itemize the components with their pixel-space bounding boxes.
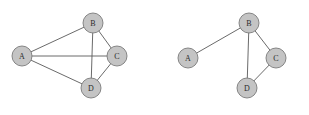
node-circle	[266, 48, 286, 68]
graph-edge-a-b	[188, 23, 249, 58]
graph-figure-canvas: ABCDABCD	[0, 0, 309, 115]
node-circle	[81, 78, 101, 98]
reduced-graph-nodes: ABCD	[178, 13, 286, 98]
graph-edge-a-d	[22, 56, 91, 88]
graph-node-d[interactable]: D	[237, 78, 257, 98]
graph-node-a[interactable]: A	[12, 46, 32, 66]
reduced-graph-edges	[188, 23, 276, 88]
graph-node-c[interactable]: C	[266, 48, 286, 68]
node-circle	[178, 48, 198, 68]
graph-node-b[interactable]: B	[83, 13, 103, 33]
graph-node-d[interactable]: D	[81, 78, 101, 98]
graph-node-c[interactable]: C	[107, 46, 127, 66]
graph-node-b[interactable]: B	[239, 13, 259, 33]
graph-edge-a-b	[22, 23, 93, 56]
graph-node-a[interactable]: A	[178, 48, 198, 68]
nodes-layer: ABCDABCD	[12, 13, 286, 98]
node-circle	[237, 78, 257, 98]
node-circle	[12, 46, 32, 66]
node-circle	[83, 13, 103, 33]
node-circle	[239, 13, 259, 33]
node-circle	[107, 46, 127, 66]
figure-root: ABCDABCD	[0, 0, 309, 115]
complete-graph-edges	[22, 23, 117, 88]
edges-layer	[22, 23, 276, 88]
complete-graph-nodes: ABCD	[12, 13, 127, 98]
